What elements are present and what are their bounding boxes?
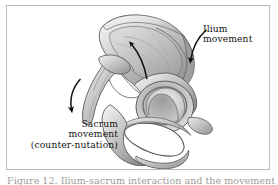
ischial-spine	[188, 117, 213, 134]
label-sacrum-line3: (counter-nutation)	[31, 140, 118, 150]
label-ilium-movement: Ilium movement	[203, 24, 252, 45]
figure-container: Ilium movement Sacrum movement (counter-…	[0, 0, 278, 185]
figure-frame: Ilium movement Sacrum movement (counter-…	[6, 5, 270, 170]
label-ilium-line2: movement	[203, 34, 252, 44]
figure-caption: Figure 12. Ilium-sacrum interaction and …	[7, 175, 275, 185]
sacrum-movement-arrow	[71, 79, 81, 110]
label-sacrum-movement: Sacrum movement (counter-nutation)	[31, 119, 118, 150]
